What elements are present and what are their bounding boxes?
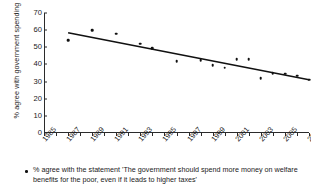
y-axis-label: % agree with government spending — [12, 0, 21, 124]
legend-caption: % agree with the statement 'The governme… — [33, 165, 305, 184]
x-tick-mark — [104, 133, 105, 136]
chart-container: % agree with government spending 0102030… — [0, 0, 311, 190]
y-tick-label: 60 — [34, 26, 42, 34]
x-tick-mark — [128, 133, 129, 136]
x-tick-mark — [177, 133, 178, 136]
plot-area: 010203040506070 198519871989199119931995… — [44, 13, 309, 133]
x-tick-mark — [273, 133, 274, 136]
y-tick-label: 70 — [34, 9, 42, 17]
x-tick-mark — [297, 133, 298, 136]
x-tick-mark — [249, 133, 250, 136]
legend-marker-icon — [25, 170, 28, 173]
y-tick-label: 10 — [34, 112, 42, 120]
y-tick-label: 30 — [34, 78, 42, 86]
x-tick-mark — [56, 133, 57, 136]
x-tick-mark — [152, 133, 153, 136]
trend-line — [44, 13, 309, 133]
x-tick-mark — [80, 133, 81, 136]
y-tick-label: 40 — [34, 61, 42, 69]
y-tick-label: 50 — [34, 43, 42, 51]
y-tick-label: 20 — [34, 95, 42, 103]
